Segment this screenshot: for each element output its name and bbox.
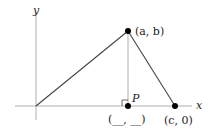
x-axis-label: x (196, 99, 203, 112)
y-axis-label: y (32, 4, 40, 17)
base-end-point (172, 103, 178, 109)
foot-label: (__, __) (108, 113, 146, 126)
base-end-label: (c, 0) (164, 114, 193, 127)
foot-point (125, 103, 131, 109)
apex-point (125, 28, 131, 34)
foot-point-name: P (131, 92, 140, 105)
triangle-diagram: y x (a, b) P (__, __) (c, 0) (0, 0, 212, 131)
apex-label: (a, b) (135, 25, 164, 38)
side-origin-apex (36, 31, 128, 106)
diagram-canvas: y x (a, b) P (__, __) (c, 0) (0, 0, 212, 131)
